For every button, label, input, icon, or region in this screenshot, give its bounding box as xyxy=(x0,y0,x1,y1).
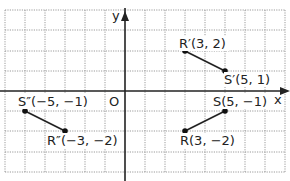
label-s-double-prime: S″(−5, −1) xyxy=(18,94,88,109)
y-axis-arrow-icon xyxy=(121,11,129,21)
coordinate-plane: y x O R′(3, 2) S′(5, 1) S(5, −1) R(3, −2… xyxy=(0,0,290,181)
point-s-double-prime xyxy=(22,108,28,114)
label-s: S(5, −1) xyxy=(213,94,267,109)
x-axis-label: x xyxy=(274,92,282,107)
y-axis-label: y xyxy=(112,8,120,23)
label-r-double-prime: R″(−3, −2) xyxy=(47,133,118,148)
label-s-prime: S′(5, 1) xyxy=(224,72,270,87)
label-r: R(3, −2) xyxy=(180,133,235,148)
point-s xyxy=(222,108,228,114)
origin-label: O xyxy=(109,94,119,109)
label-r-prime: R′(3, 2) xyxy=(179,36,226,51)
